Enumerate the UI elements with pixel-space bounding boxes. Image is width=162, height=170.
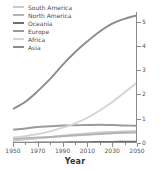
legend-item-label: Asia [28,44,41,51]
x-tick-label: 2030 [105,148,120,154]
y-tick [137,22,141,23]
legend-swatch-icon [13,38,24,40]
population-line-chart: 012345 195019701990201020302050 Year Pop… [0,0,162,170]
legend-item-label: North America [28,12,71,19]
x-minor-tick [25,143,26,145]
legend-item-label: South America [28,4,72,11]
x-axis-label: Year [13,157,137,166]
y-tick-label: 4 [142,43,146,49]
legend-item-label: Europe [28,28,49,35]
x-tick-label: 1990 [55,148,70,154]
legend-item[interactable]: Africa [13,35,72,43]
x-minor-tick [100,143,101,145]
y-tick-label: 3 [142,67,146,73]
legend-swatch-icon [13,46,24,48]
legend-swatch-icon [13,14,24,16]
legend: South AmericaNorth AmericaOceaniaEuropeA… [13,3,72,51]
y-tick-label: 1 [142,116,146,122]
legend-item-label: Oceania [28,20,53,27]
y-tick [137,94,141,95]
legend-item[interactable]: North America [13,11,72,19]
legend-item-label: Africa [28,36,45,43]
x-tick-label: 1950 [5,148,20,154]
legend-swatch-icon [13,30,24,32]
legend-item[interactable]: Asia [13,43,72,51]
y-tick-label: 5 [142,19,146,25]
legend-item[interactable]: Europe [13,27,72,35]
x-tick-label: 2010 [80,148,95,154]
y-tick [137,119,141,120]
y-tick [137,70,141,71]
x-minor-tick [125,143,126,145]
y-tick-label: 0 [142,140,146,146]
y-tick-label: 2 [142,91,146,97]
x-minor-tick [50,143,51,145]
legend-swatch-icon [13,6,24,8]
x-tick-label: 1970 [30,148,45,154]
legend-item[interactable]: South America [13,3,72,11]
x-minor-tick [75,143,76,145]
legend-swatch-icon [13,22,24,24]
legend-item[interactable]: Oceania [13,19,72,27]
series-line [13,125,137,130]
series-line [13,83,137,138]
x-tick-label: 2050 [129,148,144,154]
y-axis-line [136,12,137,143]
y-tick [137,46,141,47]
